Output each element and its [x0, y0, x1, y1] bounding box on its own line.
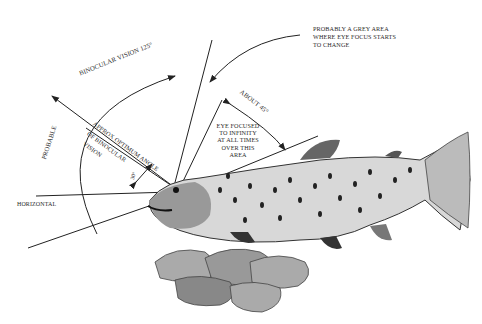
grey-area-label: PROBABLY A GREY AREA WHERE EYE FOCUS STA…: [313, 25, 396, 49]
diagram-lines: [0, 0, 482, 324]
horizontal-line: [36, 192, 172, 196]
eye-focused-line-1: EYE FOCUSED: [208, 122, 268, 129]
eye-focused-line-5: AREA: [208, 151, 268, 158]
horizontal-label: HORIZONTAL: [17, 200, 56, 208]
grey-area-line-1: PROBABLY A GREY AREA: [313, 25, 396, 33]
eye-focused-line-2: TO INFINITY: [208, 129, 268, 136]
rocks-illustration: [155, 249, 309, 312]
grey-area-line-3: TO CHANGE: [313, 41, 396, 49]
grey-area-line-2: WHERE EYE FOCUS STARTS: [313, 33, 396, 41]
trout-vision-diagram: PROBABLY A GREY AREA WHERE EYE FOCUS STA…: [0, 0, 482, 324]
eye-focused-line-3: AT ALL TIMES: [208, 136, 268, 143]
eye-focused-line-4: OVER THIS: [208, 144, 268, 151]
trout-illustration: [148, 132, 470, 249]
eye-focused-label: EYE FOCUSED TO INFINITY AT ALL TIMES OVE…: [208, 122, 268, 158]
